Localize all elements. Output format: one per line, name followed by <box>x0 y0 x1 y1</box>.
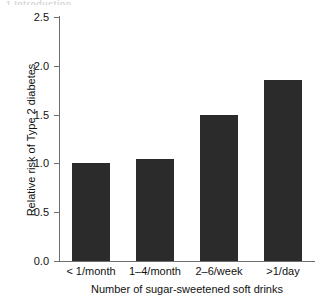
bar <box>136 159 174 261</box>
y-axis-title: Relative risk of Type 2 diabetes <box>25 25 37 255</box>
bar-chart-figure: 1 Introduction 0.00.51.01.52.02.5 < 1/mo… <box>0 0 326 305</box>
bar <box>264 80 302 261</box>
x-axis-category-label: 2–6/week <box>187 265 251 277</box>
x-axis-category-label: < 1/month <box>59 265 123 277</box>
y-axis-tick-mark <box>54 261 59 262</box>
x-axis-category-label: 1–4/month <box>123 265 187 277</box>
bars-container <box>59 17 315 261</box>
bar <box>200 115 238 261</box>
x-axis-title: Number of sugar-sweetened soft drinks <box>59 283 315 295</box>
bar <box>72 163 110 261</box>
clipped-header-text: 1 Introduction <box>6 0 176 5</box>
y-axis-tick-label: 0.0 <box>34 256 49 267</box>
x-axis-line <box>59 261 315 262</box>
y-axis-tick-label: 2.5 <box>34 12 49 23</box>
x-axis-category-label: >1/day <box>251 265 315 277</box>
